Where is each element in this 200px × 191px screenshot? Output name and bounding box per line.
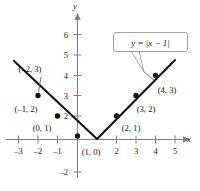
data-point — [35, 93, 40, 98]
y-axis-label: y — [72, 1, 77, 11]
point-label: (2, 1) — [122, 123, 141, 133]
y-tick-label: –2 — [59, 167, 69, 177]
x-tick-label: 4 — [153, 146, 158, 156]
point-label: (–1, 2) — [15, 104, 38, 114]
x-tick-label: –1 — [52, 146, 62, 156]
x-tick-label: 2 — [114, 146, 118, 156]
y-tick-label: 6 — [64, 30, 68, 40]
point-label: (4, 3) — [158, 85, 177, 95]
x-tick-label: –3 — [13, 146, 23, 156]
x-axis-label: x — [186, 134, 191, 144]
absolute-value-graph: –3 –2 –1 2 3 4 5 x 6 5 4 3 2 — [0, 0, 200, 191]
point-label: (1, 0) — [82, 147, 101, 157]
callout-pointer — [144, 72, 154, 80]
point-label: (0, 1) — [33, 123, 52, 133]
data-point — [55, 113, 60, 118]
x-tick-label: 3 — [134, 146, 138, 156]
point-label: (–2, 3) — [19, 64, 42, 74]
callout-tail — [131, 51, 144, 72]
point-labels: (–2, 3) (–1, 2) (0, 1) (1, 0) (2, 1) (3,… — [15, 64, 177, 157]
data-point — [133, 93, 138, 98]
y-tick-label: 4 — [64, 71, 69, 81]
y-tick-label: 3 — [64, 91, 68, 101]
x-tick-label: 5 — [173, 146, 177, 156]
data-point — [114, 113, 119, 118]
y-tick-label: 5 — [64, 50, 68, 60]
data-point — [75, 133, 80, 138]
equation-label: y = |x − 1| — [130, 38, 170, 48]
x-tick-label: –2 — [33, 146, 43, 156]
point-label: (3, 2) — [137, 104, 156, 114]
y-axis-arrow — [74, 13, 80, 20]
y-axis: 6 5 4 3 2 –2 y — [59, 1, 82, 178]
data-point — [153, 73, 158, 78]
graph-figure: –3 –2 –1 2 3 4 5 x 6 5 4 3 2 — [0, 0, 200, 191]
